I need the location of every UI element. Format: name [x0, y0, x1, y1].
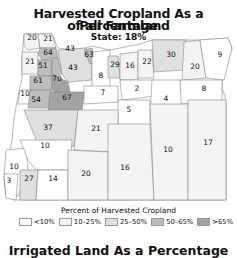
- next-map-title: Irrigated Land As a Percentage: [0, 243, 237, 258]
- county-value: 67: [62, 93, 72, 102]
- legend-swatch: [197, 218, 210, 226]
- county-value: 20: [190, 62, 200, 71]
- county-value: 70: [52, 74, 62, 83]
- county-value: 10: [9, 162, 19, 171]
- county-value: 2: [135, 84, 140, 93]
- legend-swatch: [105, 218, 118, 226]
- county-value: 37: [43, 123, 53, 132]
- county-value: 5: [127, 105, 132, 114]
- legend-item-lt10: <10%: [19, 218, 55, 226]
- county-value: 63: [84, 50, 94, 59]
- county-value: 17: [203, 138, 213, 147]
- county-value: 21: [25, 57, 35, 66]
- county-crook: [118, 100, 150, 126]
- county-value: 20: [81, 169, 91, 178]
- legend-label: 25–50%: [120, 218, 147, 226]
- state-percentage: State: 18%: [0, 32, 237, 42]
- county-value: 14: [48, 174, 58, 183]
- county-value: 9: [218, 50, 223, 59]
- legend-swatch: [19, 218, 32, 226]
- county-value: 43: [68, 63, 78, 72]
- legend-swatch: [151, 218, 164, 226]
- legend-item-gt65: >65%: [197, 218, 233, 226]
- legend-swatch: [59, 218, 72, 226]
- legend-label: >65%: [212, 218, 233, 226]
- legend-label: 50–65%: [166, 218, 193, 226]
- county-value: 43: [65, 44, 75, 53]
- county-value: 16: [120, 163, 130, 172]
- county-value: 8: [99, 71, 104, 80]
- county-value: 4: [164, 94, 169, 103]
- county-value: 30: [166, 50, 176, 59]
- county-value: 61: [33, 76, 43, 85]
- county-value: 22: [142, 57, 152, 66]
- county-value: 27: [24, 174, 34, 183]
- county-value: 7: [101, 88, 106, 97]
- county-value: 3: [7, 176, 12, 185]
- legend-item-25-50: 25–50%: [105, 218, 147, 226]
- legend-item-10-25: 10–25%: [59, 218, 101, 226]
- county-malheur: [188, 100, 226, 200]
- county-value: 29: [110, 60, 120, 69]
- county-value: 54: [31, 95, 41, 104]
- county-value: 10: [20, 89, 30, 98]
- county-value: 16: [125, 61, 135, 70]
- county-value: 8: [202, 84, 207, 93]
- county-wasco: [92, 50, 110, 90]
- county-value: 10: [163, 145, 173, 154]
- county-value: 10: [40, 141, 50, 150]
- county-value: 21: [91, 124, 101, 133]
- legend-label: <10%: [34, 218, 55, 226]
- legend-title: Percent of Harvested Cropland: [0, 206, 237, 215]
- county-value: 51: [38, 61, 48, 70]
- legend: <10% 10–25% 25–50% 50–65% >65%: [19, 218, 233, 226]
- county-lake: [108, 124, 154, 200]
- county-value: 64: [43, 48, 53, 57]
- legend-item-50-65: 50–65%: [151, 218, 193, 226]
- legend-label: 10–25%: [74, 218, 101, 226]
